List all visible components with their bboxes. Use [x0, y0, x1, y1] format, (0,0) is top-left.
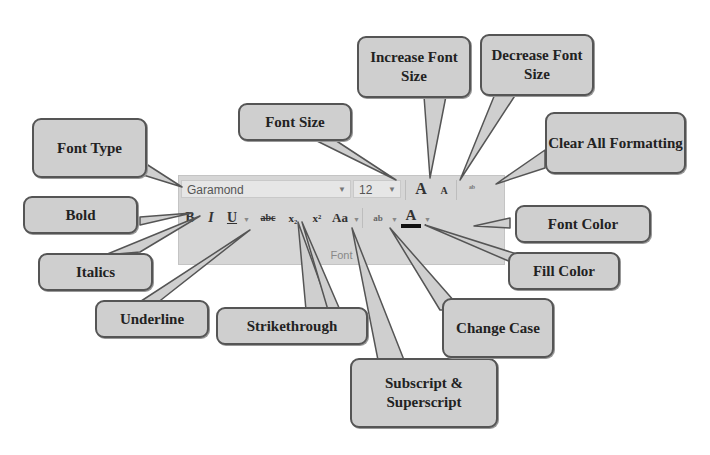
callout-clear-all-formatting: Clear All Formatting — [545, 112, 686, 174]
callout-decrease-font-size: Decrease Font Size — [480, 34, 594, 96]
callout-italics: Italics — [38, 253, 153, 291]
callout-change-case: Change Case — [442, 298, 554, 358]
font-group-diagram: Garamond ▼ 12 ▼ A A ᵃᵇ B I U ▼ abc x₂ x²… — [0, 0, 710, 455]
callout-subscript-superscript: Subscript & Superscript — [350, 358, 498, 428]
callout-increase-font-size: Increase Font Size — [357, 36, 471, 98]
callout-underline: Underline — [95, 300, 209, 338]
callout-font-type: Font Type — [32, 118, 147, 178]
callout-font-size: Font Size — [238, 103, 352, 141]
callout-strikethrough: Strikethrough — [216, 307, 368, 345]
callout-fill-color: Fill Color — [508, 252, 620, 290]
callout-font-color: Font Color — [515, 205, 651, 243]
callout-bold: Bold — [23, 196, 138, 234]
